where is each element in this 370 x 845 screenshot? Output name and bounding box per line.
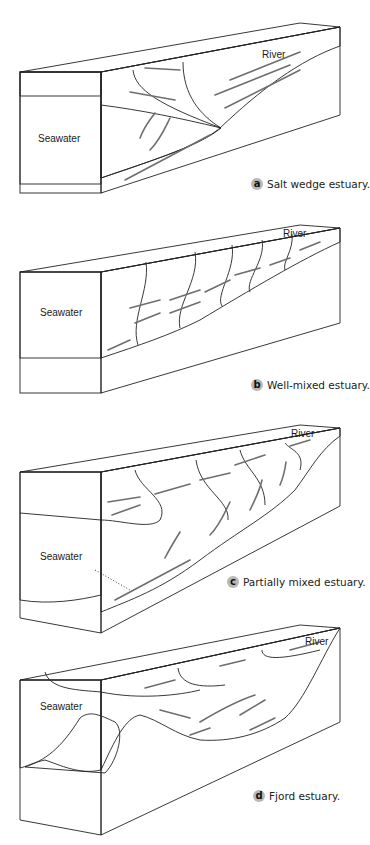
panel-b-river-label: River [283,228,307,239]
panel-d-fjord: Seawater River [20,625,340,835]
caption-b-text: Well-mixed estuary. [267,379,370,391]
panel-a-top-surface [20,23,340,72]
panel-a-river-label: River [262,49,286,60]
caption-c: c Partially mixed estuary. [227,576,365,588]
caption-b-badge: b [251,379,263,391]
caption-b: b Well-mixed estuary. [251,379,370,391]
panel-b-flow-arrows [108,242,320,350]
panel-b-well-mixed: Seawater River [20,225,340,393]
caption-c-text: Partially mixed estuary. [243,576,365,588]
caption-a-text: Salt wedge estuary. [267,178,370,190]
panel-d-sill [25,714,120,773]
panel-c-seawater-face [20,472,101,602]
panel-a-seawater-label: Seawater [38,133,81,144]
panel-d-top-surface [20,625,340,680]
panel-d-water-side [101,628,340,770]
panel-a-fresh-layer [20,72,101,96]
panel-d-land-side [101,628,340,835]
caption-a: a Salt wedge estuary. [251,178,370,190]
caption-a-badge: a [251,178,263,190]
caption-c-badge: c [227,576,239,588]
panel-c-halocline-lines [101,443,301,524]
panel-b-mixing-lines [136,234,292,345]
panel-a-seawater-face [20,72,101,184]
panel-a-salt-wedge: Seawater River [20,23,340,193]
panel-d-river-label: River [305,636,329,647]
panel-b-front-face [20,272,101,393]
caption-d-badge: d [253,790,265,802]
panel-c-seawater-label: Seawater [40,551,83,562]
panel-b-seawater-label: Seawater [40,307,83,318]
caption-d: d Fjord estuary. [253,790,340,802]
panel-c-land-side [101,428,340,633]
panel-c-river-label: River [291,428,315,439]
panel-d-surface-layer-lines [45,650,320,696]
panel-d-seawater-face [20,680,101,771]
panel-d-seawater-label: Seawater [40,701,83,712]
panel-c-partially-mixed: Seawater River [20,425,340,633]
caption-d-text: Fjord estuary. [269,790,340,802]
panel-a-salt-wedge-shape [101,105,221,178]
